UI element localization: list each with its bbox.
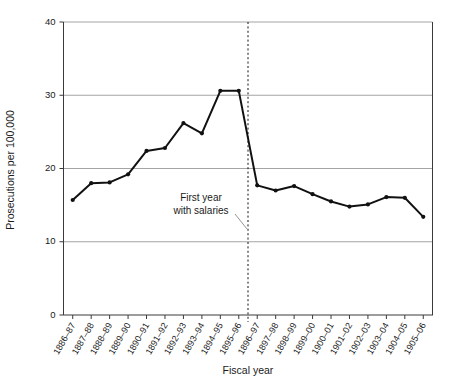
data-point-marker [108,180,112,184]
data-point-marker [200,131,204,135]
annotation-line-2: with salaries [172,205,228,216]
y-tick-label: 20 [45,162,56,173]
y-tick-label: 30 [45,89,56,100]
data-point-marker [329,199,333,203]
data-point-marker [292,184,296,188]
data-point-marker [218,89,222,93]
data-point-marker [347,204,351,208]
data-point-marker [144,149,148,153]
annotation-line-1: First year [180,192,222,203]
data-point-marker [181,121,185,125]
data-point-marker [89,181,93,185]
y-tick-label: 0 [50,309,55,320]
chart-figure: 010203040 1886–871887–881888–891889–9018… [0,0,449,390]
x-axis-title: Fiscal year [223,364,274,376]
data-point-marker [126,172,130,176]
data-point-marker [163,146,167,150]
data-point-marker [384,195,388,199]
data-point-marker [71,198,75,202]
y-axis-title: Prosecutions per 100,000 [4,110,16,230]
data-point-marker [403,196,407,200]
prosecutions-line-chart: 010203040 1886–871887–881888–891889–9018… [0,0,449,390]
data-point-marker [310,192,314,196]
data-point-marker [237,89,241,93]
y-tick-label: 10 [45,235,56,246]
data-point-marker [366,202,370,206]
data-point-marker [274,188,278,192]
data-point-marker [421,215,425,219]
y-tick-label: 40 [45,16,56,27]
data-point-marker [255,183,259,187]
